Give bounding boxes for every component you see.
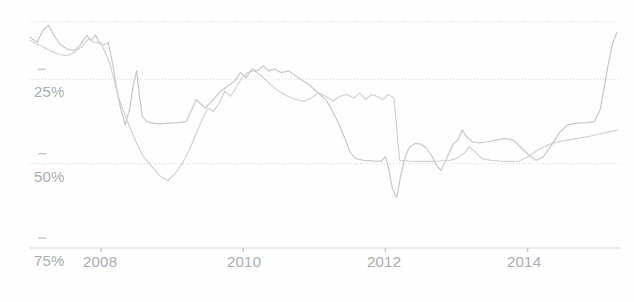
x-tick-label-2012: 2012 bbox=[367, 253, 401, 270]
gridlines bbox=[30, 22, 620, 164]
y-tick-label-50: 50% bbox=[34, 168, 65, 185]
axis-tick-marks bbox=[38, 69, 528, 252]
x-tick-label-2014: 2014 bbox=[507, 253, 541, 270]
series-line-series-1 bbox=[30, 25, 617, 197]
series-line-series-2 bbox=[30, 39, 617, 181]
y-tick-label-25: 25% bbox=[34, 83, 65, 100]
x-tick-label-2008: 2008 bbox=[83, 253, 117, 270]
series-lines bbox=[30, 25, 617, 197]
x-tick-label-2010: 2010 bbox=[227, 253, 261, 270]
line-chart: 25% 50% 75% 2008 2010 2012 2014 bbox=[0, 0, 634, 302]
y-tick-label-75: 75% bbox=[34, 252, 65, 269]
